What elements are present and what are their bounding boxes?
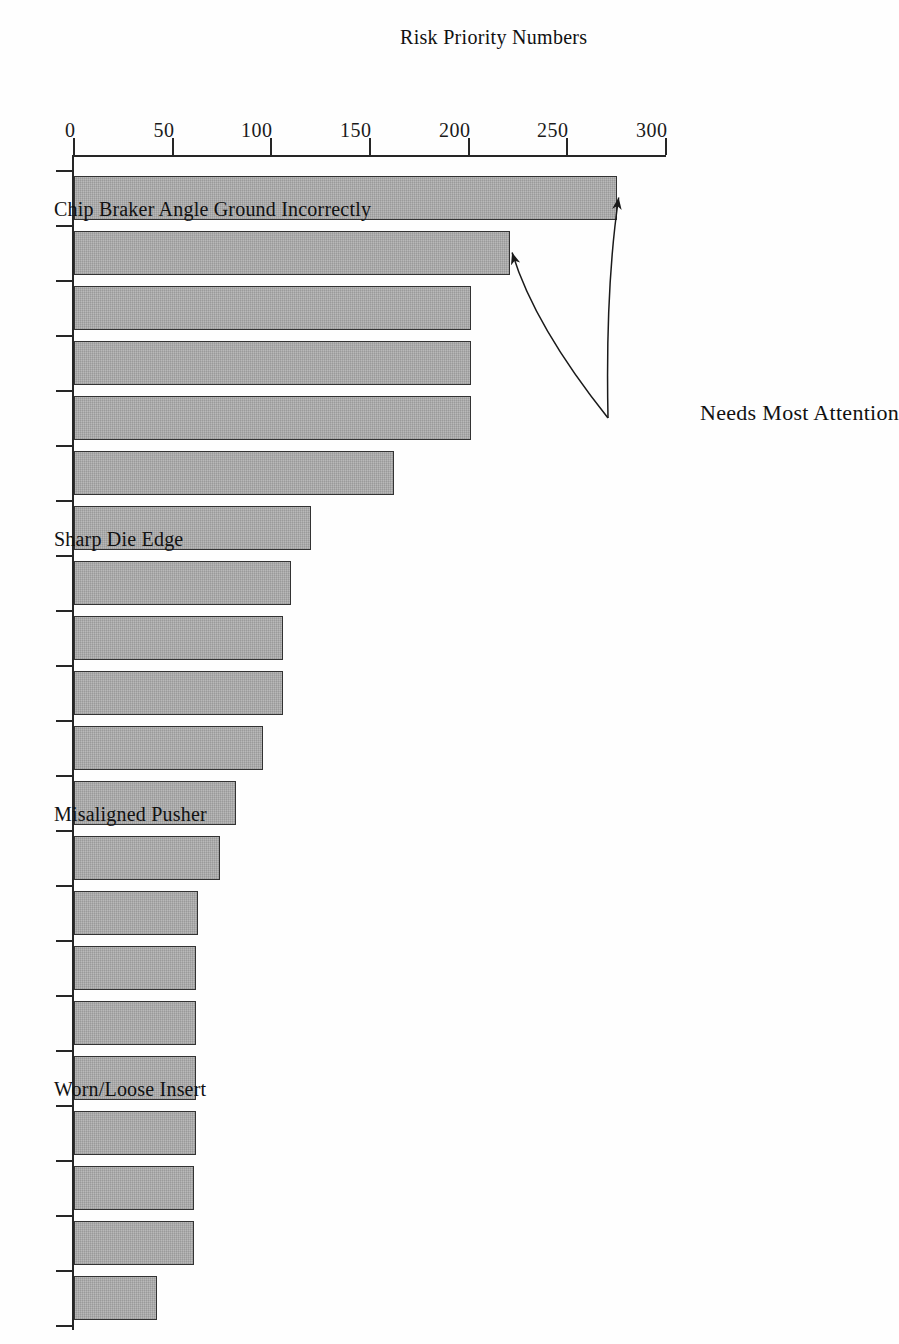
- annotation-needs-most-attention: Needs Most Attention: [700, 400, 899, 426]
